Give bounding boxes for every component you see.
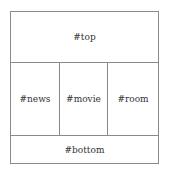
news-label: #news bbox=[20, 94, 51, 104]
room-region: #room bbox=[108, 63, 158, 135]
top-label: #top bbox=[73, 32, 95, 42]
layout-frame: #top #news #movie #room #bottom bbox=[10, 11, 159, 164]
movie-label: #movie bbox=[66, 94, 101, 104]
bottom-region: #bottom bbox=[11, 135, 158, 163]
bottom-label: #bottom bbox=[65, 145, 105, 155]
movie-region: #movie bbox=[60, 63, 108, 135]
top-region: #top bbox=[11, 12, 158, 63]
room-label: #room bbox=[117, 94, 148, 104]
news-region: #news bbox=[11, 63, 60, 135]
